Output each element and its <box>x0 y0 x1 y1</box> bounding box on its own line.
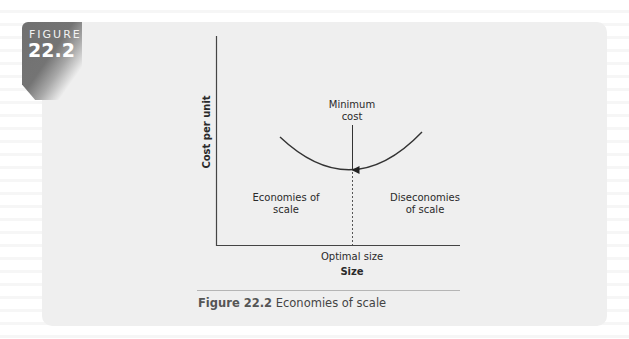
minimum-cost-line1: Minimum <box>329 99 375 111</box>
x-axis-label: Size <box>340 266 363 278</box>
optimal-size-label: Optimal size <box>321 251 383 263</box>
cost-curve-chart <box>0 0 629 339</box>
caption-divider <box>197 290 460 291</box>
diseconomies-line1: Diseconomies <box>390 192 460 204</box>
diseconomies-line2: of scale <box>390 204 460 216</box>
caption-number: Figure 22.2 <box>198 296 272 310</box>
minimum-cost-label: Minimum cost <box>329 99 375 123</box>
y-axis-label: Cost per unit <box>201 95 212 168</box>
minimum-cost-line2: cost <box>329 111 375 123</box>
economies-line1: Economies of <box>252 192 319 204</box>
caption-text: Economies of scale <box>276 296 386 310</box>
figure-caption: Figure 22.2 Economies of scale <box>198 296 386 310</box>
diseconomies-label: Diseconomies of scale <box>390 192 460 216</box>
economies-line2: scale <box>252 204 319 216</box>
cost-curve <box>280 132 422 170</box>
economies-label: Economies of scale <box>252 192 319 216</box>
